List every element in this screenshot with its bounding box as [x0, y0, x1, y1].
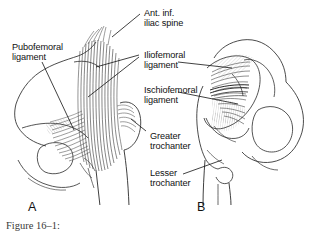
pubofemoral-fibers-a — [50, 111, 90, 161]
lateral-capsule-fibers-a — [117, 105, 136, 132]
label-line-1: Greater — [150, 131, 180, 141]
label-line-1: Lesser — [150, 168, 177, 178]
label-line-2: ligament — [144, 95, 178, 105]
label-iliofemoral-ligament: Iliofemoral ligament — [144, 50, 185, 71]
label-pubofemoral-ligament: Pubofemoral ligament — [12, 42, 63, 63]
panel-b-drawing — [197, 40, 304, 206]
capsule-dark-band-b — [210, 85, 249, 99]
label-line-1: Ischiofemoral — [144, 85, 197, 95]
leader-iliofemoral-a2 — [88, 57, 139, 97]
label-line-2: ligament — [144, 60, 178, 70]
label-line-1: Iliofemoral — [144, 50, 185, 60]
label-ischiofemoral-ligament: Ischiofemoral ligament — [144, 85, 197, 106]
leader-iliofemoral-a1 — [96, 55, 139, 67]
label-ant-inf-iliac-spine: Ant. inf. iliac spine — [144, 8, 183, 29]
figure-caption: Figure 16–1: — [6, 220, 60, 231]
label-line-2: ligament — [12, 52, 46, 62]
anatomy-illustration — [0, 0, 326, 236]
label-line-2: iliac spine — [144, 18, 183, 28]
label-greater-trochanter: Greater trochanter — [150, 131, 190, 152]
label-line-1: Pubofemoral — [12, 42, 63, 52]
leader-ant-inf-iliac-spine — [112, 14, 140, 37]
panel-letter-a: A — [28, 200, 36, 214]
label-lesser-trochanter: Lesser trochanter — [150, 168, 190, 189]
label-line-2: trochanter — [150, 178, 190, 188]
label-line-1: Ant. inf. — [144, 8, 174, 18]
label-line-2: trochanter — [150, 141, 190, 151]
panel-letter-b: B — [197, 200, 205, 214]
anatomy-figure: Ant. inf. iliac spine Pubofemoral ligame… — [0, 0, 326, 236]
